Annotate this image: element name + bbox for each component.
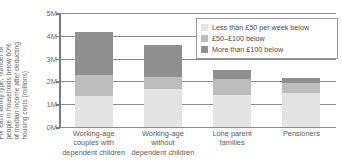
x-axis-label-line: without [128, 138, 197, 147]
legend-swatch-icon [201, 46, 208, 53]
x-axis-label-line: Pensioners [267, 129, 336, 138]
x-axis-label-line: dependent children [59, 148, 128, 157]
y-axis-tick [56, 36, 60, 38]
x-axis-label-line: Working-age [128, 129, 197, 138]
bar-segment [282, 93, 320, 127]
bar-segment [75, 75, 113, 97]
bar-segment [213, 79, 251, 95]
bar-segment [144, 45, 182, 77]
legend-swatch-icon [201, 35, 208, 42]
bar [75, 13, 113, 127]
x-axis-label-line: Lone parent [198, 129, 267, 138]
bar-segment [75, 96, 113, 127]
bar-segment [75, 32, 113, 74]
bar [144, 13, 182, 127]
legend-item-label: More than £100 below [212, 46, 283, 53]
chart-title-cropped [120, 0, 342, 2]
bar-segment [213, 70, 251, 79]
x-axis-label-line: couples with [59, 138, 128, 147]
y-axis-tick [56, 59, 60, 61]
legend-item[interactable]: Less than £50 per week below [201, 22, 333, 33]
stacked-bar-chart: For each family type, number of people i… [0, 0, 342, 161]
bar-segment [282, 78, 320, 83]
gridline [59, 127, 336, 128]
bar-segment [144, 89, 182, 127]
x-axis-category-labels: Working-agecouples withdependent childre… [59, 129, 342, 161]
legend-item-label: Less than £50 per week below [212, 24, 309, 31]
x-axis-category-label: Pensioners [267, 129, 336, 138]
legend-item[interactable]: £50–£100 below [201, 33, 333, 44]
y-axis-caption-line: of median income after deducting [14, 43, 21, 141]
y-axis-caption-line: people in households below 60% [6, 44, 13, 140]
x-axis-category-label: Lone parentfamilies [198, 129, 267, 148]
bar-segment [282, 83, 320, 93]
x-axis-category-label: Working-agecouples withdependent childre… [59, 129, 128, 157]
legend-item[interactable]: More than £100 below [201, 44, 333, 55]
chart-legend: Less than £50 per week below£50–£100 bel… [196, 18, 338, 59]
x-axis-category-label: Working-agewithoutdependent children [128, 129, 197, 157]
legend-swatch-icon [201, 24, 208, 31]
y-axis-tick-labels: 0M1M2M3M4M5M [36, 13, 57, 127]
y-axis-caption-line: For each family type, number of [0, 47, 5, 140]
y-axis-caption-line: housing costs (millions) [22, 71, 29, 140]
bar-segment [213, 95, 251, 127]
x-axis-label-line: dependent children [128, 148, 197, 157]
x-axis-label-line: families [198, 138, 267, 147]
y-axis-tick [56, 81, 60, 83]
y-axis-line [59, 13, 61, 127]
bar-segment [144, 77, 182, 90]
y-axis-tick [56, 104, 60, 106]
legend-item-label: £50–£100 below [212, 35, 265, 42]
x-axis-label-line: Working-age [59, 129, 128, 138]
y-axis-tick [56, 13, 60, 15]
